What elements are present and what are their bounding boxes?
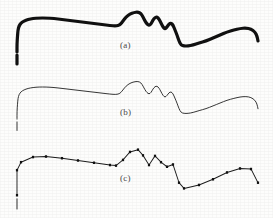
contour-plot-a	[0, 0, 273, 72]
dominant-point-marker	[93, 162, 95, 165]
dominant-point-marker	[166, 165, 168, 168]
dominant-point-marker	[172, 163, 174, 166]
figure-container: (a) (b) (c)	[0, 0, 273, 218]
panel-b-thin-boundary	[0, 70, 273, 138]
dominant-point-marker	[16, 194, 18, 197]
dominant-point-markers	[16, 148, 259, 196]
contour-plot-b	[0, 70, 273, 138]
dominant-point-marker	[198, 184, 200, 187]
dominant-point-marker	[137, 148, 139, 151]
dominant-point-marker	[212, 178, 214, 181]
contour-path-b	[17, 82, 258, 120]
dominant-point-marker	[115, 164, 117, 167]
dominant-point-marker	[61, 157, 63, 160]
dominant-point-marker	[154, 155, 156, 158]
dominant-point-marker	[129, 151, 131, 154]
dominant-point-marker	[226, 171, 228, 174]
contour-polyline-c	[17, 150, 258, 196]
dominant-point-marker	[142, 154, 144, 157]
dominant-point-marker	[250, 168, 252, 171]
dominant-point-marker	[178, 181, 180, 184]
dominant-point-marker	[148, 164, 150, 167]
contour-path-a	[17, 12, 258, 52]
dominant-point-marker	[77, 159, 79, 162]
panel-label-a: (a)	[120, 40, 131, 50]
dominant-point-marker	[160, 161, 162, 164]
panel-label-c: (c)	[120, 173, 131, 183]
dominant-point-marker	[16, 169, 18, 172]
dominant-point-marker	[239, 167, 241, 170]
panel-a-thick-boundary	[0, 0, 273, 72]
dominant-point-marker	[20, 161, 22, 164]
panel-label-b: (b)	[120, 107, 131, 117]
dominant-point-marker	[109, 164, 111, 167]
dominant-point-marker	[183, 187, 185, 190]
dominant-point-marker	[122, 159, 124, 162]
panel-c-polyline-dominant-points	[0, 136, 273, 218]
dominant-point-marker	[257, 181, 259, 184]
contour-plot-c	[0, 136, 273, 218]
dominant-point-marker	[45, 155, 47, 158]
dominant-point-marker	[32, 156, 34, 159]
